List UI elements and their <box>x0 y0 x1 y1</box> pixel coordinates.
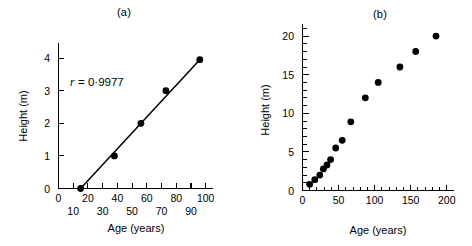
svg-text:200: 200 <box>438 194 456 206</box>
svg-text:4: 4 <box>44 52 50 64</box>
data-point <box>196 56 203 63</box>
svg-text:10: 10 <box>282 107 294 119</box>
svg-text:15: 15 <box>282 69 294 81</box>
panel-a: (a) 0 1 2 3 4 <box>0 0 236 246</box>
svg-text:150: 150 <box>402 194 420 206</box>
panel-a-correlation-annotation: r = 0·9977 <box>70 76 124 88</box>
correlation-symbol: r <box>70 76 75 88</box>
svg-text:20: 20 <box>282 30 294 42</box>
data-point <box>163 87 170 94</box>
svg-text:10: 10 <box>67 205 79 217</box>
panel-a-plot: 0 1 2 3 4 0 <box>0 0 236 246</box>
data-point <box>138 120 145 127</box>
svg-text:100: 100 <box>366 194 384 206</box>
svg-text:70: 70 <box>156 205 168 217</box>
svg-text:0: 0 <box>56 192 62 204</box>
panel-b-ylabel: Height (m) <box>259 84 271 135</box>
correlation-value: = 0·9977 <box>78 76 124 88</box>
svg-text:3: 3 <box>44 85 50 97</box>
panel-b: (b) <box>236 0 472 246</box>
data-point <box>77 185 84 192</box>
panel-a-xlabel: Age (years) <box>108 222 165 234</box>
data-point <box>412 48 419 55</box>
svg-text:2: 2 <box>44 117 50 129</box>
figure-container: (a) 0 1 2 3 4 <box>0 0 472 246</box>
data-point <box>327 156 334 163</box>
svg-text:60: 60 <box>141 192 153 204</box>
svg-text:80: 80 <box>170 192 182 204</box>
panel-a-y-tick-labels: 0 1 2 3 4 <box>44 52 50 194</box>
data-point <box>347 118 354 125</box>
data-point <box>311 176 318 183</box>
data-point <box>362 94 369 101</box>
svg-text:50: 50 <box>333 194 345 206</box>
panel-b-data-points <box>306 33 439 188</box>
svg-text:50: 50 <box>126 205 138 217</box>
svg-text:5: 5 <box>288 146 294 158</box>
svg-text:100: 100 <box>197 192 215 204</box>
svg-text:1: 1 <box>44 150 50 162</box>
data-point <box>316 172 323 179</box>
data-point <box>332 145 339 152</box>
data-point <box>375 79 382 86</box>
data-point <box>433 33 440 40</box>
data-point <box>111 153 118 160</box>
svg-text:0: 0 <box>300 194 306 206</box>
panel-a-y-ticks <box>59 58 65 188</box>
svg-text:20: 20 <box>82 192 94 204</box>
svg-text:30: 30 <box>97 205 109 217</box>
data-point <box>306 181 313 188</box>
svg-text:90: 90 <box>185 205 197 217</box>
panel-b-y-minor-ticks <box>303 28 307 182</box>
data-point <box>397 64 404 71</box>
panel-b-xlabel: Age (years) <box>350 224 407 236</box>
panel-b-y-tick-labels: 0 5 10 15 20 <box>282 30 294 196</box>
svg-text:40: 40 <box>112 192 124 204</box>
svg-text:0: 0 <box>288 185 294 197</box>
panel-a-x-tick-labels-upper: 0 20 40 60 80 100 <box>56 192 215 204</box>
panel-a-x-tick-labels-lower: 10 30 50 70 90 <box>67 205 197 217</box>
panel-b-plot: 0 5 10 15 20 <box>236 0 472 246</box>
data-point <box>339 137 346 144</box>
panel-a-ylabel: Height (m) <box>17 90 29 141</box>
panel-b-x-tick-labels: 0 50 100 150 200 <box>300 194 456 206</box>
svg-text:0: 0 <box>44 183 50 195</box>
